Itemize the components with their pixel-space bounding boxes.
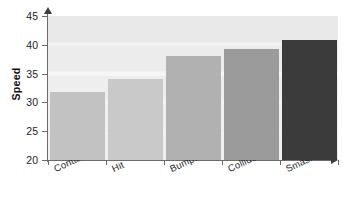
x-tick <box>280 160 281 165</box>
y-tick-label: 40 <box>0 40 38 51</box>
bar-collided <box>224 49 279 160</box>
y-tick <box>42 45 47 46</box>
y-tick <box>42 74 47 75</box>
y-tick <box>42 102 47 103</box>
y-axis-line <box>47 12 48 162</box>
y-tick-label: 45 <box>0 11 38 22</box>
x-tick <box>338 160 339 165</box>
y-axis-arrow-icon <box>44 7 52 14</box>
x-tick <box>164 160 165 165</box>
bar-chart: Speed 202530354045 ContactedHitBumpedCol… <box>0 0 353 207</box>
y-tick-label: 35 <box>0 69 38 80</box>
y-tick <box>42 16 47 17</box>
bar-contacted <box>50 92 105 160</box>
bar-smashed <box>282 40 337 160</box>
bar-bumped <box>166 56 221 160</box>
y-tick-label: 20 <box>0 155 38 166</box>
y-tick <box>42 160 47 161</box>
x-tick <box>222 160 223 165</box>
y-tick <box>42 131 47 132</box>
x-tick <box>106 160 107 165</box>
y-tick-label: 30 <box>0 97 38 108</box>
bar-hit <box>108 79 163 160</box>
x-tick-label: Hit <box>110 159 126 174</box>
x-tick <box>48 160 49 165</box>
y-tick-label: 25 <box>0 126 38 137</box>
